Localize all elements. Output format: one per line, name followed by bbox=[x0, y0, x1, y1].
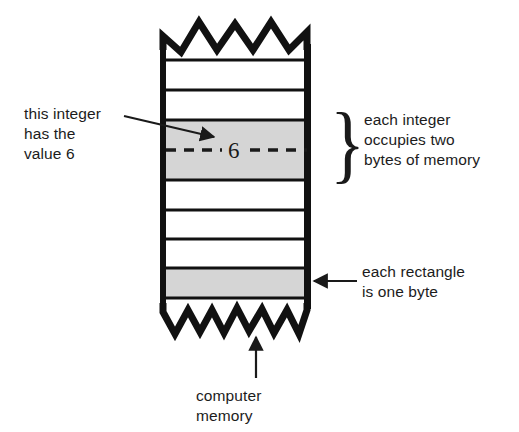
memory-column-right-wall bbox=[304, 44, 311, 309]
two-byte-brace-glyph: } bbox=[330, 100, 365, 186]
memory-column-left-wall bbox=[160, 44, 166, 309]
annotation-each-rectangle-text: each rectangle is one byte bbox=[362, 262, 465, 302]
torn-edge-top-icon bbox=[163, 22, 307, 52]
torn-edge-bottom-icon bbox=[163, 303, 307, 334]
annotation-this-integer-text: this integer has the value 6 bbox=[24, 104, 101, 164]
integer-digit-label: 6 bbox=[228, 138, 240, 164]
shaded-byte-cell-single bbox=[166, 268, 307, 298]
annotation-each-integer-text: each integer occupies two bytes of memor… bbox=[364, 110, 480, 170]
memory-diagram bbox=[0, 0, 519, 432]
annotation-computer-memory-text: computer memory bbox=[196, 386, 261, 426]
